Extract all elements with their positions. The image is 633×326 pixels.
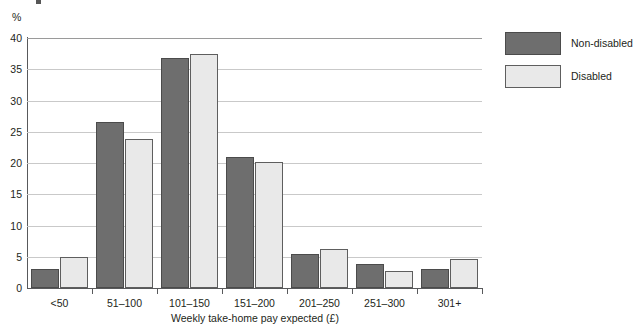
cropped-caption-descender — [36, 0, 41, 4]
x-axis-tick-1 — [92, 288, 93, 294]
bar-non-disabled-3 — [226, 157, 254, 288]
legend-swatch-non-disabled — [505, 32, 561, 55]
y-axis-unit-label: % — [12, 11, 21, 23]
x-axis-tick-6 — [417, 288, 418, 294]
x-axis-title: Weekly take-home pay expected (£) — [0, 312, 510, 324]
x-axis-tick-3 — [222, 288, 223, 294]
y-tick-label-5: 5 — [16, 251, 22, 262]
legend-label-non-disabled: Non-disabled — [571, 37, 633, 50]
x-axis-tick-5 — [352, 288, 353, 294]
x-axis-category-label-2: 101–150 — [169, 297, 210, 309]
plot-area: 0510152025303540 — [27, 38, 482, 288]
x-axis-tick-end — [482, 288, 483, 294]
legend-swatch-disabled — [505, 65, 561, 88]
bar-disabled-2 — [190, 54, 218, 288]
bar-disabled-4 — [320, 249, 348, 288]
bar-non-disabled-0 — [31, 269, 59, 288]
bar-non-disabled-4 — [291, 254, 319, 288]
legend-label-disabled: Disabled — [571, 70, 612, 83]
y-tick-label-0: 0 — [16, 283, 22, 294]
y-tick-label-15: 15 — [10, 189, 22, 200]
x-axis-category-label-5: 251–300 — [364, 297, 405, 309]
x-axis-category-label-4: 201–250 — [299, 297, 340, 309]
bar-disabled-1 — [125, 139, 153, 288]
bar-disabled-6 — [450, 259, 478, 288]
x-axis-category-label-6: 301+ — [438, 297, 462, 309]
gridline-25: 25 — [27, 132, 482, 133]
y-tick-label-30: 30 — [10, 95, 22, 106]
bar-disabled-3 — [255, 162, 283, 288]
bar-disabled-5 — [385, 271, 413, 289]
x-axis-tick-4 — [287, 288, 288, 294]
bar-disabled-0 — [60, 257, 88, 288]
y-tick-label-35: 35 — [10, 64, 22, 75]
x-axis-category-label-1: 51–100 — [107, 297, 142, 309]
y-tick-label-40: 40 — [10, 33, 22, 44]
x-axis-category-label-3: 151–200 — [234, 297, 275, 309]
gridline-0: 0 — [27, 288, 482, 289]
y-tick-label-10: 10 — [10, 220, 22, 231]
y-tick-label-20: 20 — [10, 158, 22, 169]
gridline-35: 35 — [27, 69, 482, 70]
y-tick-label-25: 25 — [10, 126, 22, 137]
gridline-40: 40 — [27, 38, 482, 39]
x-axis-tick-2 — [157, 288, 158, 294]
bar-non-disabled-2 — [161, 58, 189, 288]
x-axis-category-label-0: <50 — [51, 297, 69, 309]
bar-non-disabled-1 — [96, 122, 124, 288]
gridline-30: 30 — [27, 101, 482, 102]
bar-non-disabled-5 — [356, 264, 384, 288]
bar-non-disabled-6 — [421, 269, 449, 288]
